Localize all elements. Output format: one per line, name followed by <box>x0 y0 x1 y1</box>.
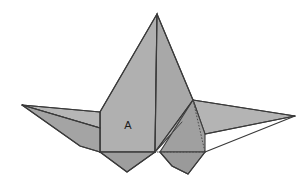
origami-figure-canvas: A <box>0 0 307 178</box>
face-label-a: A <box>124 119 132 131</box>
origami-diagram: A <box>0 0 307 178</box>
